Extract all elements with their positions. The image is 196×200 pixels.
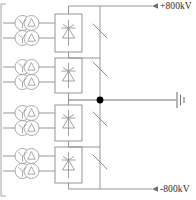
converter-block-3[interactable] [55,105,82,141]
converter-group-1[interactable] [3,6,107,58]
converter-block-1[interactable] [55,14,82,52]
transformer-1a[interactable] [3,16,55,31]
arrow-left-icon [152,3,158,9]
transformer-4b[interactable] [3,164,55,179]
positive-pole-label: +800kV [160,1,192,11]
arrow-left-icon [152,186,158,192]
converter-group-2[interactable] [3,58,107,100]
transformer-3b[interactable] [3,121,55,136]
transformer-1b[interactable] [3,31,55,46]
converter-block-2[interactable] [55,58,82,93]
transformer-3a[interactable] [3,106,55,121]
negative-pole-label: -800kV [160,184,190,194]
hvdc-single-line-diagram: +800kV -800kV [0,0,196,200]
transformer-2a[interactable] [3,60,55,75]
transformer-2b[interactable] [3,75,55,90]
terminal-negative-pole[interactable]: -800kV [152,184,190,194]
converter-group-3[interactable] [3,100,107,147]
transformer-4a[interactable] [3,149,55,164]
diagram-canvas: +800kV -800kV [0,0,196,200]
junction-dot-icon [97,97,104,104]
ground-icon [177,92,184,108]
converter-block-4[interactable] [55,147,82,183]
terminal-positive-pole[interactable]: +800kV [152,1,192,11]
neutral-branch [69,92,185,108]
converter-group-4[interactable] [3,147,107,189]
frame-guides [1,4,6,196]
